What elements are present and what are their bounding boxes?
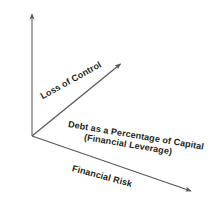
risk-return-diagram: Profitability Loss of Control Debt as a … bbox=[0, 0, 209, 208]
